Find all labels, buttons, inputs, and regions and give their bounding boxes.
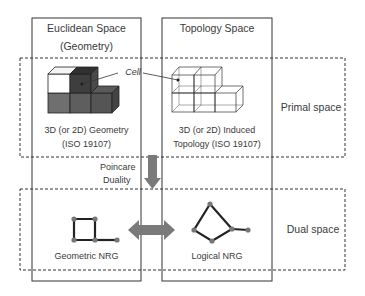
duality-down-arrow-icon — [144, 155, 161, 189]
topology-title: Topology Space — [162, 22, 272, 35]
logical-nrg-caption: Logical NRG — [162, 250, 272, 262]
primal-space-label: Primal space — [278, 101, 344, 114]
duality-label-line2: Duality — [103, 174, 145, 186]
topology-caption-line2: Topology (ISO 19107) — [162, 138, 272, 150]
euclidean-title-line1: Euclidean Space — [32, 22, 141, 35]
topology-wireframe-icon — [172, 67, 243, 112]
logical-nrg-graph-icon — [191, 201, 250, 243]
dual-space-label: Dual space — [282, 223, 344, 236]
geometry-caption-line1: 3D (or 2D) Geometry — [32, 124, 141, 136]
geometric-nrg-caption: Geometric NRG — [32, 250, 141, 262]
duality-label-line1: Poincare — [100, 161, 145, 173]
geometry-cubes-icon — [48, 67, 119, 113]
topology-caption-line1: 3D (or 2D) Induced — [162, 124, 272, 136]
geometric-nrg-graph-icon — [71, 216, 119, 242]
cell-label: Cell — [120, 66, 146, 78]
geometry-caption-line2: (ISO 19107) — [32, 138, 141, 150]
bidirectional-arrow-icon — [128, 220, 175, 240]
euclidean-title-line2: (Geometry) — [32, 40, 141, 53]
